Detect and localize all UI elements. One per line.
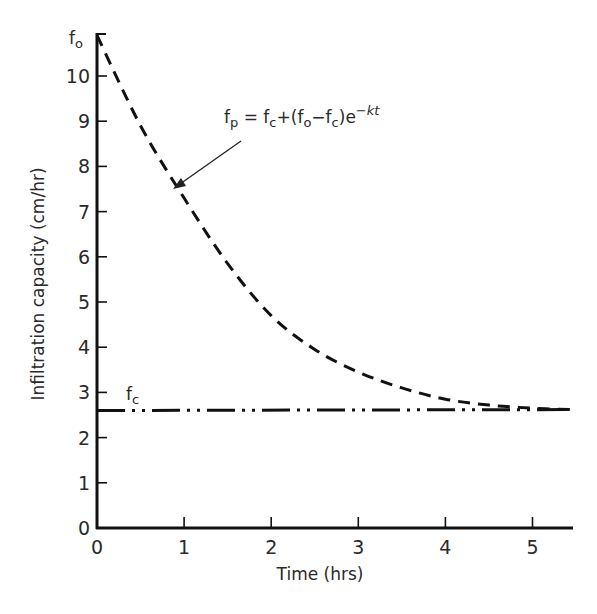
fo-tick-label: fo (69, 28, 83, 51)
fc-constant-line (97, 410, 572, 411)
y-tick-label: 1 (78, 472, 90, 494)
annotation-arrow (173, 141, 241, 189)
x-tick-label: 0 (91, 536, 103, 558)
fc-label: fc (126, 384, 139, 407)
y-tick-label: 6 (78, 246, 90, 268)
y-tick-labels: 012345678910 (66, 65, 90, 539)
y-axis-label: Infiltration capacity (cm/hr) (28, 167, 48, 400)
infiltration-chart: 012345678910 012345 fo fc fp = fc+(fo−fc… (0, 0, 597, 614)
y-tick-label: 7 (78, 201, 90, 223)
x-ticks (184, 517, 532, 528)
x-tick-label: 2 (265, 536, 277, 558)
y-tick-label: 3 (78, 381, 90, 403)
y-tick-label: 0 (78, 517, 90, 539)
y-tick-label: 8 (78, 155, 90, 177)
y-tick-label: 2 (78, 427, 90, 449)
x-tick-label: 1 (178, 536, 190, 558)
y-tick-label: 5 (78, 291, 90, 313)
x-axis-label: Time (hrs) (276, 564, 364, 584)
equation-annotation: fp = fc+(fo−fc)e−kt (224, 103, 380, 130)
y-tick-label: 10 (66, 65, 90, 87)
x-tick-label: 5 (526, 536, 538, 558)
x-tick-labels: 012345 (91, 536, 539, 558)
y-tick-label: 9 (78, 110, 90, 132)
x-tick-label: 4 (439, 536, 451, 558)
y-tick-label: 4 (78, 336, 90, 358)
axes (96, 33, 573, 529)
x-tick-label: 3 (352, 536, 364, 558)
fp-decay-curve (97, 35, 572, 409)
